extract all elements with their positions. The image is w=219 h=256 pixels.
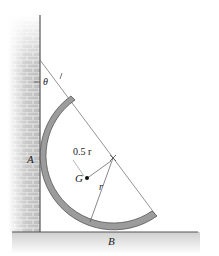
point-b-label: B	[108, 235, 115, 247]
theta-label: θ	[43, 76, 48, 87]
ground-surface	[12, 232, 200, 254]
hoop-against-wall-diagram: θ A B G 0.5 r r	[0, 0, 219, 256]
center-of-gravity-dot	[85, 176, 89, 180]
radius-label: r	[99, 181, 103, 192]
half-radius-dimension-line	[86, 161, 111, 179]
half-radius-label: 0.5 r	[73, 146, 92, 157]
center-cross	[110, 155, 116, 161]
brick-wall	[8, 15, 40, 232]
point-g-label: G	[75, 172, 83, 184]
point-a-label: A	[26, 153, 34, 165]
hoop-arc	[40, 96, 157, 230]
diameter-reference-line	[40, 60, 155, 214]
theta-arc-tick	[60, 73, 62, 79]
